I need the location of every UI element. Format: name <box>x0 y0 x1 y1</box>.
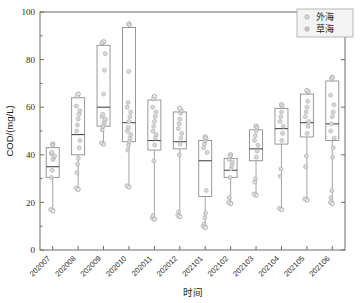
data-point <box>154 110 158 114</box>
data-point <box>77 146 81 150</box>
box-plot-chart: 0204060801002020072020082020092020102020… <box>0 0 361 303</box>
data-point <box>278 119 282 123</box>
data-point <box>128 115 132 119</box>
data-point <box>203 216 207 220</box>
data-point <box>126 100 130 104</box>
data-point <box>154 133 158 137</box>
data-point <box>330 189 334 193</box>
data-point <box>305 131 309 135</box>
y-axis-title: COD/(mg/L) <box>4 105 15 156</box>
plot-frame <box>40 12 345 250</box>
data-point <box>51 143 55 147</box>
legend-marker-1 <box>305 15 309 19</box>
data-point <box>281 131 285 135</box>
data-point <box>228 154 232 158</box>
legend-label-2: 草海 <box>316 23 334 34</box>
data-point <box>99 141 103 145</box>
data-point <box>280 139 284 143</box>
data-point <box>329 129 333 133</box>
data-point <box>332 103 336 107</box>
data-point <box>279 115 283 119</box>
x-tick-label: 202105 <box>282 254 306 278</box>
x-tick-label: 202102 <box>206 254 230 278</box>
data-point <box>279 167 283 171</box>
data-point <box>151 97 155 101</box>
data-point <box>304 154 308 158</box>
x-tick-label: 202007 <box>28 254 52 278</box>
data-point <box>303 115 307 119</box>
data-point <box>75 171 79 175</box>
data-point <box>103 52 107 56</box>
data-point <box>74 186 78 190</box>
data-point <box>331 146 335 150</box>
data-point <box>330 122 334 126</box>
data-point <box>101 112 105 116</box>
data-point <box>126 148 130 152</box>
data-point <box>176 127 180 131</box>
data-point <box>178 117 182 121</box>
data-point <box>127 119 131 123</box>
data-point <box>255 149 259 153</box>
data-point <box>228 175 232 179</box>
data-point <box>252 192 256 196</box>
data-point <box>307 119 311 123</box>
x-tick-label: 202104 <box>257 254 281 278</box>
data-point <box>151 129 155 133</box>
data-point <box>75 94 79 98</box>
data-point <box>254 177 258 181</box>
data-point <box>331 155 335 159</box>
chart-svg: 0204060801002020072020082020092020102020… <box>0 0 361 303</box>
y-tick-label: 80 <box>26 55 36 65</box>
data-point <box>330 115 334 119</box>
data-point <box>153 115 157 119</box>
data-point <box>306 124 310 128</box>
data-point <box>253 139 257 143</box>
data-point <box>75 129 79 133</box>
data-point <box>50 150 54 154</box>
data-point <box>125 105 129 109</box>
data-point <box>76 117 80 121</box>
data-point <box>304 110 308 114</box>
data-point <box>177 122 181 126</box>
data-point <box>204 189 208 193</box>
x-tick-label: 202101 <box>180 254 204 278</box>
data-point <box>102 92 106 96</box>
data-point <box>280 104 284 108</box>
data-point <box>328 200 332 204</box>
data-point <box>179 109 183 113</box>
y-tick-label: 0 <box>31 245 36 255</box>
data-point <box>75 123 79 127</box>
data-point <box>127 70 131 74</box>
x-tick-label: 202010 <box>104 254 128 278</box>
x-tick-label: 202012 <box>155 254 179 278</box>
data-point <box>177 153 181 157</box>
data-point <box>129 133 133 137</box>
x-tick-label: 202008 <box>53 254 77 278</box>
x-tick-label: 202009 <box>79 254 103 278</box>
data-point <box>176 210 180 214</box>
data-point <box>278 174 282 178</box>
x-tick-label: 202106 <box>307 254 331 278</box>
x-tick-label: 202011 <box>130 254 154 278</box>
data-point <box>253 134 257 138</box>
y-tick-label: 60 <box>26 102 36 112</box>
data-point <box>305 105 309 109</box>
data-point <box>49 175 53 179</box>
data-point <box>304 165 308 169</box>
data-point <box>303 197 307 201</box>
data-point <box>126 125 130 129</box>
data-point <box>255 125 259 129</box>
data-point <box>151 105 155 109</box>
data-point <box>329 196 333 200</box>
data-point <box>227 196 231 200</box>
data-point <box>329 93 333 97</box>
x-tick-label: 202103 <box>231 254 255 278</box>
x-axis-title: 时间 <box>183 287 203 298</box>
data-point <box>152 159 156 163</box>
data-point <box>281 124 285 128</box>
data-point <box>125 184 129 188</box>
data-point <box>332 136 336 140</box>
data-point <box>331 110 335 114</box>
y-tick-label: 20 <box>26 198 36 208</box>
data-point <box>180 131 184 135</box>
